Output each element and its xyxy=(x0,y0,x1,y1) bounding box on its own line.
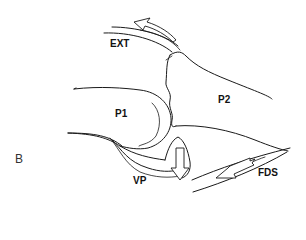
volar-plate xyxy=(68,133,190,178)
label-vp: VP xyxy=(133,176,146,186)
panel-label: B xyxy=(15,153,23,165)
label-p1: P1 xyxy=(115,109,127,119)
label-ext: EXT xyxy=(110,39,129,49)
label-fds: FDS xyxy=(258,168,278,178)
label-p2: P2 xyxy=(218,95,230,105)
